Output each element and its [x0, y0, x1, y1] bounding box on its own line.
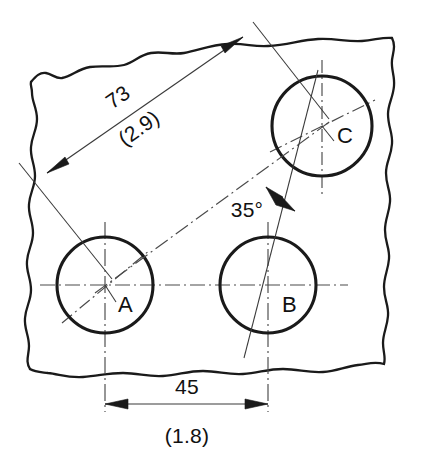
arrow-head-45-right — [245, 399, 268, 409]
hole-label-b: B — [282, 292, 297, 317]
technical-drawing-svg: 73 (2.9) 35° 45 (1.8) A B C — [0, 0, 423, 460]
break-edge-bottom — [30, 363, 384, 377]
leader-tick-c — [322, 126, 334, 141]
arrow-head-73-left — [47, 157, 69, 173]
hole-label-a: A — [118, 292, 133, 317]
dimension-73-secondary-text: (2.9) — [114, 106, 164, 150]
break-edge-top — [31, 38, 392, 82]
extension-line-a-diagonal — [19, 163, 112, 279]
leader-tick-a — [105, 285, 116, 302]
dimension-line-73 — [47, 37, 243, 173]
dimension-45-secondary-text: (1.8) — [165, 424, 210, 447]
holes-group — [57, 76, 372, 333]
arrow-head-45-left — [105, 399, 128, 409]
dimension-35deg-text: 35° — [231, 198, 264, 221]
dimension-45-primary-text: 45 — [175, 375, 199, 398]
dimension-45-group: 45 (1.8) — [105, 375, 268, 447]
break-edge-right — [383, 38, 394, 364]
break-edge-left — [25, 82, 37, 369]
technical-drawing-canvas: 73 (2.9) 35° 45 (1.8) A B C — [0, 0, 423, 460]
hole-label-c: C — [337, 123, 353, 148]
dimension-73-primary-text: 73 — [101, 81, 134, 114]
